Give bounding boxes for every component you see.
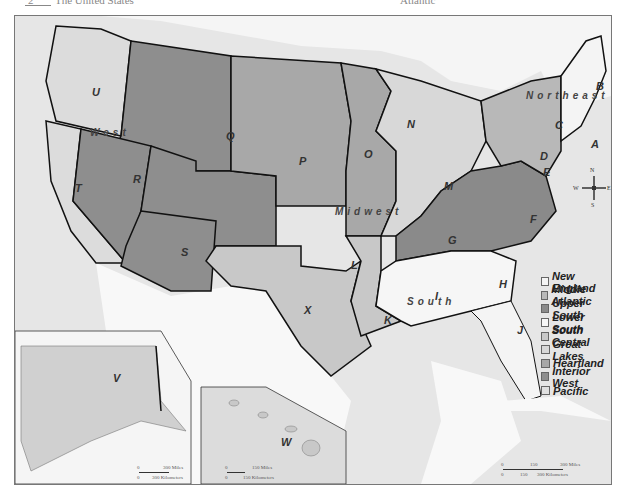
scale-label: 0 [225,465,228,470]
compass-s: S [591,202,594,208]
legend-swatch [541,318,549,327]
area-label-t: T [75,182,82,194]
scale-label: 0 [225,475,228,480]
scale-label: 150 Kilometers [243,475,274,480]
area-label-f: F [530,213,537,225]
legend-swatch [541,304,549,313]
header-right-text: Atlantic [400,0,435,6]
scale-label: 150 [530,462,538,467]
scale-label: 150 [520,472,528,477]
legend-swatch [541,345,550,354]
area-label-r: R [133,173,141,185]
area-label-e: E [543,166,550,178]
area-label-x: X [304,304,311,316]
scale-label: 0 [501,462,504,467]
compass-icon [581,175,607,201]
area-label-j: J [517,324,523,336]
area-label-b: B [596,80,604,92]
header-rule [25,5,51,6]
legend: New England Middle Atlantic Upper South … [541,275,611,397]
area-label-k: K [384,314,392,326]
map-frame: West Midwest South Northeast A B C D E F… [14,15,612,485]
region-label-midwest: Midwest [335,206,402,217]
area-label-o: O [364,148,373,160]
legend-item-interior-west: Interior West [541,370,611,384]
area-label-g: G [448,234,457,246]
legend-swatch [541,291,548,300]
area-label-p: P [299,155,306,167]
scale-label: 300 Miles [560,462,580,467]
area-label-i: I [435,290,438,302]
area-label-m: M [444,180,453,192]
compass-w: W [573,185,579,191]
region-label-south: South [407,296,455,307]
area-label-v: V [113,372,120,384]
area-label-w: W [281,436,291,448]
scale-label: 0 [137,475,140,480]
legend-swatch [541,386,550,395]
header-left-text: The United States [55,0,134,6]
page-header: 2 The United States Atlantic [0,0,634,8]
legend-swatch [541,332,549,341]
area-label-l: L [351,259,358,271]
scale-label: 0 [137,465,140,470]
area-label-a: A [591,138,599,150]
legend-swatch [541,277,549,286]
area-label-n: N [407,118,415,130]
scale-label: 300 Kilometers [152,475,183,480]
legend-swatch [541,372,549,381]
area-label-s: S [181,246,188,258]
scale-label: 300 Kilometers [537,472,568,477]
scale-label: 300 Miles [163,465,183,470]
area-label-h: H [499,278,507,290]
region-label-west: West [90,127,130,138]
scale-label: 0 [501,472,504,477]
area-label-q: Q [226,130,235,142]
compass-e: E [607,185,611,191]
area-label-u: U [92,86,100,98]
us-regions-map [15,16,611,484]
compass-n: N [590,167,594,173]
legend-swatch [541,359,550,368]
scale-label: 150 Miles [252,465,272,470]
legend-label: Pacific [553,385,588,397]
area-label-c: C [555,119,563,131]
area-label-d: D [540,150,548,162]
